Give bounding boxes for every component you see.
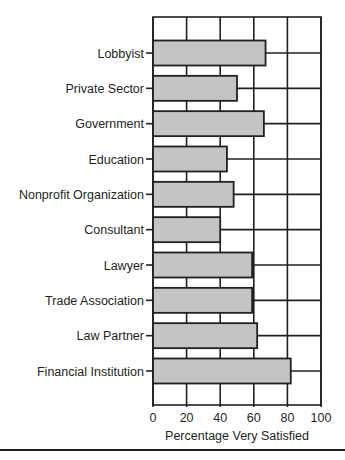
x-tick-label: 40 bbox=[213, 411, 227, 425]
bar bbox=[153, 76, 237, 101]
category-label: Private Sector bbox=[65, 82, 144, 96]
bar bbox=[153, 253, 252, 278]
category-labels: LobbyistPrivate SectorGovernmentEducatio… bbox=[19, 47, 153, 379]
bottom-rule bbox=[0, 449, 345, 451]
category-label: Government bbox=[75, 117, 144, 131]
x-tick-label: 20 bbox=[180, 411, 194, 425]
category-label: Nonprofit Organization bbox=[19, 188, 144, 202]
bar bbox=[153, 217, 220, 242]
category-label: Lobbyist bbox=[97, 47, 144, 61]
x-axis-title: Percentage Very Satisfied bbox=[165, 429, 309, 443]
category-label: Lawyer bbox=[104, 259, 144, 273]
x-tick-label: 80 bbox=[280, 411, 294, 425]
category-label: Consultant bbox=[84, 223, 144, 237]
bars bbox=[153, 41, 291, 384]
bar bbox=[153, 323, 257, 348]
bar bbox=[153, 111, 264, 136]
category-label: Education bbox=[88, 153, 144, 167]
x-tick-label: 100 bbox=[311, 411, 332, 425]
x-tick-label: 0 bbox=[150, 411, 157, 425]
bar bbox=[153, 359, 291, 384]
category-label: Trade Association bbox=[45, 294, 144, 308]
x-tick-label: 60 bbox=[247, 411, 261, 425]
x-axis: 020406080100 bbox=[150, 405, 332, 425]
bar bbox=[153, 288, 252, 313]
bar bbox=[153, 147, 227, 172]
bar-chart: LobbyistPrivate SectorGovernmentEducatio… bbox=[0, 0, 345, 460]
bar bbox=[153, 182, 234, 207]
category-label: Financial Institution bbox=[37, 365, 144, 379]
category-label: Law Partner bbox=[77, 329, 144, 343]
bar bbox=[153, 41, 266, 66]
